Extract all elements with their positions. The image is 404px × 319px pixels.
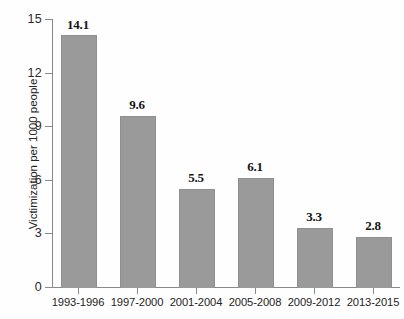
x-tick-1 xyxy=(137,288,138,294)
y-tick-label-12: 12 xyxy=(0,66,42,80)
x-tick-0 xyxy=(78,288,79,294)
y-tick-label-15: 15 xyxy=(0,12,42,26)
y-axis-line xyxy=(52,19,53,288)
bar-value-2013-2015: 2.8 xyxy=(343,218,403,234)
x-axis-label-2009-2012: 2009-2012 xyxy=(284,296,344,308)
y-tick-12 xyxy=(45,73,52,74)
bar-2005-2008 xyxy=(238,178,274,288)
x-axis-label-2005-2008: 2005-2008 xyxy=(225,296,285,308)
x-tick-5 xyxy=(373,288,374,294)
x-axis-line xyxy=(52,287,400,288)
y-tick-9 xyxy=(45,126,52,127)
x-axis-label-2013-2015: 2013-2015 xyxy=(343,296,403,308)
bar-value-2005-2008: 6.1 xyxy=(225,159,285,175)
x-tick-4 xyxy=(314,288,315,294)
y-tick-label-3: 3 xyxy=(0,226,42,240)
bar-chart: Victimization per 1000 people 15 12 9 6 … xyxy=(0,0,404,319)
y-tick-label-9: 9 xyxy=(0,119,42,133)
bar-2013-2015 xyxy=(356,237,392,288)
y-tick-label-6: 6 xyxy=(0,173,42,187)
x-axis-label-2001-2004: 2001-2004 xyxy=(166,296,226,308)
bar-2009-2012 xyxy=(297,228,333,288)
bar-value-1997-2000: 9.6 xyxy=(107,97,167,113)
y-tick-3 xyxy=(45,233,52,234)
x-axis-label-1997-2000: 1997-2000 xyxy=(107,296,167,308)
y-axis-tick-labels: 15 12 9 6 3 0 xyxy=(0,0,42,319)
y-tick-label-0: 0 xyxy=(0,280,42,294)
y-tick-6 xyxy=(45,180,52,181)
bar-value-1993-1996: 14.1 xyxy=(48,17,108,33)
bar-value-2009-2012: 3.3 xyxy=(284,209,344,225)
bar-value-2001-2004: 5.5 xyxy=(166,170,226,186)
bar-2001-2004 xyxy=(179,189,215,288)
x-tick-3 xyxy=(255,288,256,294)
x-axis-label-1993-1996: 1993-1996 xyxy=(48,296,108,308)
bar-1997-2000 xyxy=(120,116,156,289)
x-tick-2 xyxy=(196,288,197,294)
bar-1993-1996 xyxy=(61,35,97,288)
y-tick-0 xyxy=(45,287,52,288)
